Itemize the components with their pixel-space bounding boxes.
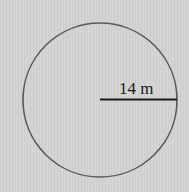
circle-diagram: 14 m <box>0 0 189 192</box>
diagram-canvas: 14 m <box>0 0 189 192</box>
radius-label: 14 m <box>119 79 153 98</box>
